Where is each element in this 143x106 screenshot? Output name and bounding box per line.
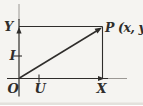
x-axis-label: X [96,81,108,96]
point-label: P (x, y) [104,20,143,35]
x-unit-label: U [35,81,47,96]
page-edge-shadow [0,103,143,106]
vector-diagram-figure: Y I O U X P (x, y) [0,0,143,105]
paper-background [0,0,143,105]
origin-label: O [8,81,20,96]
coordinate-plane-canvas: Y I O U X P (x, y) [0,0,143,105]
